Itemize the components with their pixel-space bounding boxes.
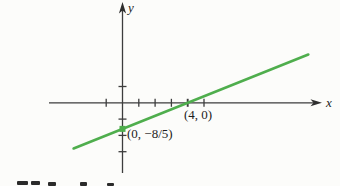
plotted-line: [74, 55, 309, 149]
x-axis-label: x: [326, 96, 332, 109]
y-intercept-label: (0, −8/5): [127, 127, 173, 140]
cutoff-text-fragment: [31, 181, 40, 185]
graph-canvas: [0, 0, 340, 186]
y-intercept-marker: [120, 126, 126, 132]
x-intercept-label: (4, 0): [184, 108, 212, 121]
y-axis-label: y: [128, 1, 134, 14]
cutoff-text-fragment: [80, 182, 87, 186]
cutoff-text-fragment: [107, 183, 114, 186]
cutoff-text-fragment: [17, 181, 28, 185]
coordinate-plane-figure: y x (4, 0) (0, −8/5): [0, 0, 340, 186]
cutoff-text-fragment: [48, 182, 56, 186]
plotted-line-group: [74, 55, 309, 149]
